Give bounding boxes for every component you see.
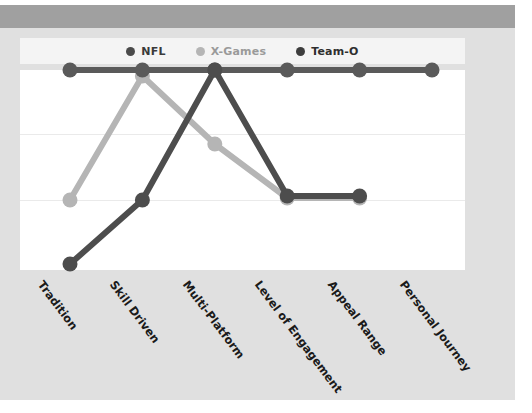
data-point-marker[interactable] — [135, 63, 150, 78]
data-point-marker[interactable] — [207, 63, 222, 78]
legend-label: NFL — [141, 45, 165, 58]
x-axis-label: Skill Driven — [107, 278, 163, 346]
legend-marker-icon — [196, 47, 205, 56]
data-point-marker[interactable] — [135, 193, 150, 208]
x-axis-label: Multi-Platform — [180, 278, 248, 361]
legend-marker-icon — [126, 47, 135, 56]
data-point-marker[interactable] — [63, 193, 78, 208]
chart-figure: NFL X-Games Team-O TraditionSkill Driven… — [0, 0, 532, 413]
chart-legend: NFL X-Games Team-O — [20, 38, 465, 64]
data-point-marker[interactable] — [207, 137, 222, 152]
legend-label: X-Games — [211, 45, 266, 58]
data-point-marker[interactable] — [352, 63, 367, 78]
series-line — [70, 70, 360, 264]
legend-marker-icon — [296, 47, 305, 56]
data-point-marker[interactable] — [352, 189, 367, 204]
plot-area — [20, 70, 465, 270]
data-point-marker[interactable] — [425, 63, 440, 78]
legend-label: Team-O — [311, 45, 359, 58]
series-plot — [20, 70, 465, 270]
legend-item-x-games[interactable]: X-Games — [196, 45, 266, 58]
legend-item-nfl[interactable]: NFL — [126, 45, 165, 58]
x-axis-label: Tradition — [35, 278, 81, 333]
x-axis-label: Appeal Range — [324, 278, 389, 358]
header-band — [0, 5, 515, 28]
data-point-marker[interactable] — [280, 189, 295, 204]
data-point-marker[interactable] — [63, 63, 78, 78]
x-axis-label: Personal Journey — [397, 278, 474, 374]
legend-item-team-o[interactable]: Team-O — [296, 45, 359, 58]
x-axis-labels: TraditionSkill DrivenMulti-PlatformLevel… — [20, 270, 465, 390]
data-point-marker[interactable] — [280, 63, 295, 78]
